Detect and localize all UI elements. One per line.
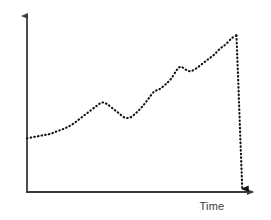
trust-collapse-arrow [236, 35, 242, 189]
chart-canvas [0, 0, 271, 220]
y-axis-label: Trust [0, 58, 10, 90]
trust-curve-dotted-line [27, 35, 236, 138]
x-axis-label: Time [186, 200, 238, 212]
trust-over-time-chart: Trust Time [0, 0, 271, 220]
